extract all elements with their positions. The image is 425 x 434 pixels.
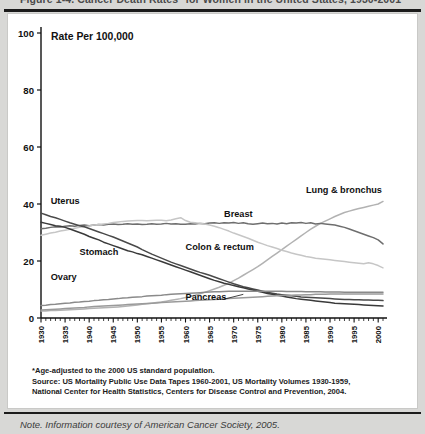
footnote-1: Source: US Mortality Public Use Data Tap…: [32, 377, 412, 388]
source-note-strip: Note. Information courtesy of American C…: [0, 416, 425, 434]
x-tick-label: 1985: [302, 325, 311, 343]
y-tick-label: 80: [23, 85, 34, 96]
figure-page: Figure 1-4. Cancer Death Rates* for Wome…: [0, 0, 425, 434]
line-chart: 0204060801001930193519401945195019551960…: [8, 14, 417, 408]
series-label-breast: Breast: [224, 209, 253, 219]
x-tick-label: 1965: [206, 325, 215, 343]
footnotes: *Age-adjusted to the 2000 US standard po…: [32, 366, 412, 398]
source-note: Note. Information courtesy of American C…: [20, 419, 280, 430]
figure-title: Figure 1-4. Cancer Death Rates* for Wome…: [20, 0, 401, 5]
x-tick-label: 1940: [85, 325, 94, 343]
x-tick-label: 1990: [326, 325, 335, 343]
x-tick-label: 1960: [182, 325, 191, 343]
series-label-colon-rectum: Colon & rectum: [186, 242, 254, 252]
x-tick-label: 1995: [350, 325, 359, 343]
y-tick-label: 0: [29, 313, 34, 324]
series-label-ovary: Ovary: [51, 272, 78, 282]
x-tick-label: 1955: [157, 325, 166, 343]
footnote-2: National Center for Health Statistics, C…: [32, 387, 412, 398]
x-tick-label: 1950: [133, 325, 142, 343]
y-tick-label: 20: [23, 256, 34, 267]
series-label-pancreas: Pancreas: [186, 292, 227, 302]
y-tick-label: 60: [23, 142, 34, 153]
bottom-divider: [4, 412, 421, 414]
x-tick-label: 1980: [278, 325, 287, 343]
top-divider: [4, 9, 421, 12]
y-tick-label: 100: [18, 28, 34, 39]
x-tick-label: 1930: [37, 325, 46, 343]
x-tick-label: 1945: [109, 325, 118, 343]
x-tick-label: 1975: [254, 325, 263, 343]
x-tick-label: 1970: [230, 325, 239, 343]
series-label-stomach: Stomach: [80, 247, 119, 257]
series-label-uterus: Uterus: [51, 196, 80, 206]
series-label-lung-bronchus: Lung & bronchus: [306, 185, 382, 195]
footnote-0: *Age-adjusted to the 2000 US standard po…: [32, 366, 412, 377]
x-tick-label: 1935: [61, 325, 70, 343]
chart-panel: 0204060801001930193519401945195019551960…: [8, 14, 417, 408]
figure-title-strip: Figure 1-4. Cancer Death Rates* for Wome…: [0, 0, 425, 8]
plot-title: Rate Per 100,000: [51, 31, 134, 42]
y-tick-label: 40: [23, 199, 34, 210]
x-tick-label: 2000: [374, 325, 383, 343]
